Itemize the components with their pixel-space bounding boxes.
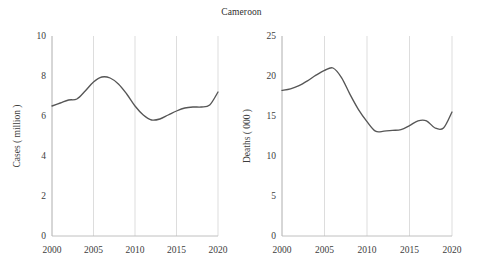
- y-tick-label-2: 2: [41, 191, 46, 201]
- y-tick-label-20: 20: [267, 71, 277, 81]
- x-tick-label-2000: 2000: [273, 245, 292, 255]
- y-tick-label-25: 25: [267, 31, 277, 41]
- page-title: Cameroon: [0, 7, 483, 17]
- y-tick-labels-group: 0510152025: [267, 31, 277, 241]
- y-tick-label-5: 5: [271, 191, 276, 201]
- deaths-line-chart: 051015202520002005201020152020Deaths ( 0…: [242, 24, 483, 274]
- chart-panel-deaths: 051015202520002005201020152020Deaths ( 0…: [242, 24, 483, 274]
- y-tick-label-0: 0: [41, 231, 46, 241]
- x-tick-label-2010: 2010: [358, 245, 377, 255]
- y-tick-label-15: 15: [267, 111, 277, 121]
- x-tick-label-2010: 2010: [126, 245, 145, 255]
- x-tick-labels-group: 20002005201020152020: [273, 245, 462, 255]
- y-tick-label-6: 6: [41, 111, 46, 121]
- y-tick-label-10: 10: [37, 31, 47, 41]
- y-tick-label-10: 10: [267, 151, 277, 161]
- gridlines-group: [282, 36, 452, 236]
- y-axis-title: Cases ( million ): [12, 104, 23, 167]
- y-tick-label-4: 4: [41, 151, 46, 161]
- x-tick-labels-group: 20002005201020152020: [43, 245, 228, 255]
- y-axis-title: Deaths ( 000 ): [242, 109, 253, 163]
- x-tick-label-2005: 2005: [315, 245, 334, 255]
- x-tick-label-2020: 2020: [443, 245, 462, 255]
- x-tick-label-2020: 2020: [209, 245, 228, 255]
- x-tick-label-2005: 2005: [84, 245, 103, 255]
- x-tick-label-2000: 2000: [43, 245, 62, 255]
- gridlines-group: [52, 36, 218, 236]
- x-tick-label-2015: 2015: [400, 245, 419, 255]
- cases-line-chart: 024681020002005201020152020Cases ( milli…: [4, 24, 242, 274]
- y-tick-label-0: 0: [271, 231, 276, 241]
- y-tick-label-8: 8: [41, 71, 46, 81]
- x-tick-label-2015: 2015: [167, 245, 186, 255]
- chart-panel-cases: 024681020002005201020152020Cases ( milli…: [4, 24, 242, 274]
- y-tick-labels-group: 0246810: [37, 31, 47, 241]
